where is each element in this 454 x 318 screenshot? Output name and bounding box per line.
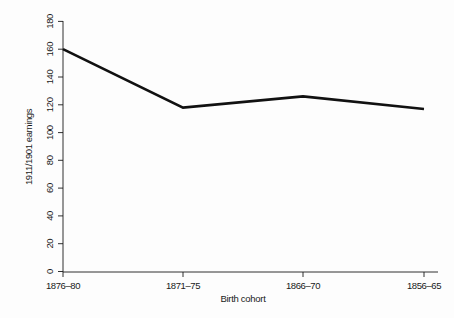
- x-axis-title: Birth cohort: [221, 293, 267, 304]
- y-tick-label-180: 180: [44, 14, 55, 29]
- x-axis-tick-labels: 1876–80 1871–75 1866–70 1856–65: [46, 280, 441, 291]
- chart-container: 0 20 40 60 80 100 120 140 160 180 1911/1…: [0, 0, 454, 318]
- y-tick-label-20: 20: [44, 239, 55, 249]
- y-tick-label-40: 40: [44, 211, 55, 221]
- y-tick-label-140: 140: [44, 70, 55, 85]
- x-tick-label-2: 1866–70: [286, 280, 320, 291]
- x-tick-label-3: 1856–65: [407, 280, 441, 291]
- earnings-series-line: [63, 49, 424, 109]
- y-tick-label-120: 120: [44, 97, 55, 112]
- y-tick-label-100: 100: [44, 125, 55, 140]
- line-chart-svg: 0 20 40 60 80 100 120 140 160 180 1911/1…: [0, 0, 454, 318]
- x-axis-ticks: [63, 272, 424, 277]
- x-tick-label-1: 1871–75: [166, 280, 200, 291]
- y-tick-label-80: 80: [44, 155, 55, 165]
- y-tick-label-160: 160: [44, 42, 55, 57]
- x-tick-label-0: 1876–80: [46, 280, 80, 291]
- y-axis-title: 1911/1901 earnings: [23, 108, 34, 185]
- y-tick-label-0: 0: [44, 269, 55, 274]
- y-axis-tick-labels: 0 20 40 60 80 100 120 140 160 180: [44, 14, 55, 274]
- y-axis-ticks: [58, 21, 63, 271]
- y-tick-label-60: 60: [44, 183, 55, 193]
